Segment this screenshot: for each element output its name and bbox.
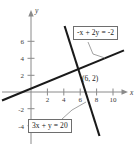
equation-label-top: -x + 2y = -2: [73, 26, 118, 40]
x-tick-label-4: 4: [62, 96, 66, 104]
y-tick-label-6: 6: [21, 38, 25, 46]
y-tick-label-minus4: -4: [18, 123, 24, 131]
y-tick-label-minus2: -2: [18, 106, 24, 114]
y-axis-label: y: [34, 6, 39, 15]
x-tick-label-2: 2: [46, 96, 50, 104]
equation-label-bottom: 3x + y = 20: [28, 119, 72, 133]
system-of-equations-figure: 2 4 6 8 10 6 4 2 -2 -4 y x (6, 2) -x + 2…: [0, 0, 136, 150]
leader-line-top-equation: [88, 42, 105, 58]
y-axis-arrow-icon: [28, 10, 33, 17]
intersection-point-label: (6, 2): [82, 74, 99, 83]
y-tick-label-2: 2: [21, 72, 25, 80]
y-tick-label-4: 4: [21, 55, 25, 63]
x-axis-arrow-icon: [122, 89, 129, 94]
x-axis-label: x: [129, 88, 134, 97]
leader-line-bottom-equation: [62, 102, 86, 119]
x-tick-label-6: 6: [78, 96, 82, 104]
x-tick-label-10: 10: [110, 96, 118, 104]
x-tick-label-8: 8: [95, 96, 99, 104]
